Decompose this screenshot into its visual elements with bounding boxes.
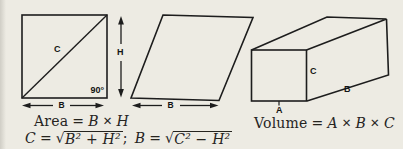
- volume-formula-label: Volume: [254, 115, 308, 131]
- area-formula-label: Area: [34, 113, 68, 129]
- parallelogram-base-arrow: [132, 103, 219, 109]
- figure-canvas: C H B 90° B C B A Area=B✕H C=√B² + H²;B=…: [0, 0, 403, 149]
- arrowhead-right: [96, 103, 105, 109]
- pythagorean-formula: C=√B² + H²;B=√C² − H²: [25, 130, 232, 146]
- box-front-face: [252, 50, 307, 101]
- separator: ;: [123, 130, 128, 146]
- box-shape: [252, 17, 389, 101]
- arrowhead-down: [118, 89, 124, 98]
- arrowhead-right: [210, 103, 219, 109]
- arrowhead-left: [22, 103, 31, 109]
- pyth-radicand-2: C² − H²: [173, 131, 232, 147]
- equals-sign: =: [312, 115, 324, 131]
- volume-formula: Volume=A✕B✕C: [254, 116, 395, 131]
- volume-term-b: B: [356, 115, 367, 131]
- equals-sign: =: [72, 113, 84, 129]
- rect-diagonal-label: C: [54, 45, 61, 54]
- area-formula: Area=B✕H: [34, 114, 129, 129]
- multiplication-sign: ✕: [103, 114, 113, 128]
- pyth-radicand-1: B² + H²: [64, 131, 123, 147]
- box-front-edge-label: A: [276, 106, 283, 115]
- box-height-label: C: [310, 67, 317, 76]
- multiplication-sign: ✕: [342, 116, 352, 130]
- rect-right-angle-label: 90°: [85, 86, 104, 95]
- height-arrow: [118, 16, 124, 98]
- arrowhead-up: [118, 16, 124, 25]
- rect-height-label: H: [117, 48, 124, 57]
- volume-term-c: C: [384, 115, 395, 131]
- volume-term-a: A: [327, 115, 337, 131]
- pyth-lhs-b: B: [135, 130, 146, 146]
- equals-sign: =: [149, 130, 161, 146]
- arrowhead-left: [132, 103, 141, 109]
- parallelogram-base-label: B: [168, 101, 174, 110]
- pyth-lhs-c: C: [25, 130, 36, 146]
- area-term-b: B: [88, 113, 99, 129]
- multiplication-sign: ✕: [370, 116, 380, 130]
- box-length-label: B: [344, 85, 351, 94]
- rect-base-label: B: [59, 101, 65, 110]
- equals-sign: =: [40, 130, 52, 146]
- box-top-face: [252, 17, 387, 50]
- parallelogram-shape: [131, 15, 253, 101]
- area-term-h: H: [117, 113, 129, 129]
